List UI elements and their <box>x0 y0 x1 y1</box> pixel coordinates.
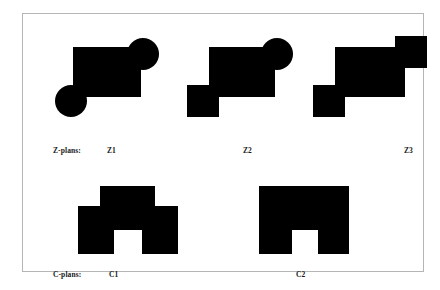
z3-body-rect <box>335 47 405 97</box>
shape-z2-svg <box>187 36 299 136</box>
shape-z1 <box>51 36 163 136</box>
shape-label-z2: Z2 <box>243 147 252 155</box>
z2-body-rect <box>209 47 275 97</box>
shape-c2-svg <box>259 186 349 256</box>
shape-label-c1: C1 <box>109 271 118 279</box>
shape-z3 <box>313 36 433 136</box>
shape-label-z1: Z1 <box>107 147 116 155</box>
figure-frame: Z-plans: Z1 Z2 Z3 C-plans: C1 C2 <box>22 13 424 272</box>
c1-outline-path <box>78 186 178 254</box>
shape-label-c2: C2 <box>296 271 305 279</box>
shape-z2 <box>187 36 299 136</box>
shape-c2 <box>259 186 349 256</box>
z1-body-rect <box>73 47 141 97</box>
c2-outline-path <box>259 186 349 254</box>
shape-c1 <box>78 186 178 256</box>
shape-z3-svg <box>313 36 433 136</box>
row-label-c-plans: C-plans: <box>53 271 81 279</box>
shape-c1-svg <box>78 186 178 256</box>
shape-label-z3: Z3 <box>404 147 413 155</box>
shape-z1-svg <box>51 36 163 136</box>
row-label-z-plans: Z-plans: <box>53 147 81 155</box>
